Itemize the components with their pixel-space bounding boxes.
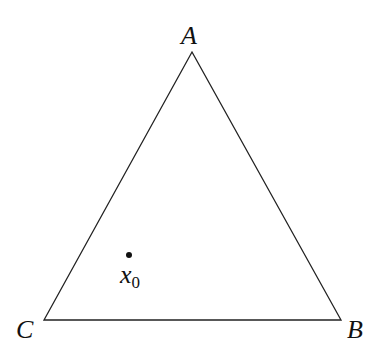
point-x0 <box>126 252 132 258</box>
vertex-label-b: B <box>347 315 363 344</box>
point-label-x0: x0 <box>119 260 140 292</box>
triangle-diagram: A B C x0 <box>0 0 386 354</box>
vertex-label-a: A <box>179 21 197 50</box>
point-label-subscript: 0 <box>132 273 141 292</box>
triangle-abc <box>44 52 341 320</box>
point-label-x: x <box>119 260 132 289</box>
vertex-label-c: C <box>16 315 34 344</box>
